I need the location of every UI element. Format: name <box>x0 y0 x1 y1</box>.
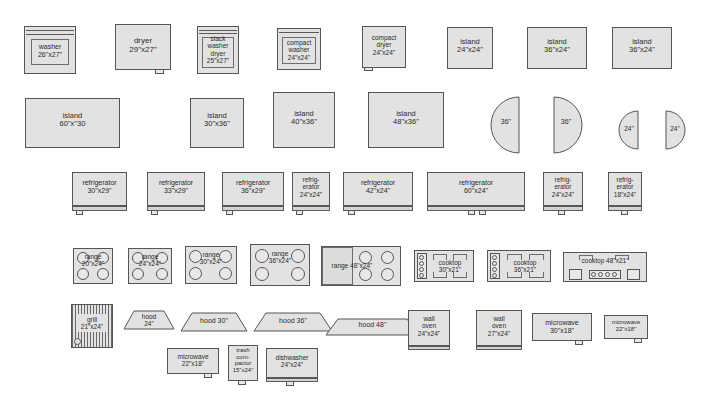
symbol-compact-washer[interactable]: compact washer 24"x24" <box>277 28 321 72</box>
compact-washer-lid-line <box>279 32 319 33</box>
microwave-22x18-b-foot <box>204 374 212 378</box>
refrigerator-60x24-body <box>427 172 525 206</box>
microwave-22x18-body <box>604 315 648 339</box>
symbol-dryer[interactable]: dryer 29"x27" <box>115 24 171 72</box>
refrigerator-24x24-foot <box>296 211 303 215</box>
symbol-island-36x24-b[interactable]: island 36"x24" <box>612 27 672 71</box>
microwave-30x18-body <box>532 313 592 341</box>
symbol-range-24x24[interactable]: range 24"x24" <box>128 248 172 284</box>
symbol-refrigerator-36x29[interactable]: refrigerator 36"x29" <box>222 172 284 216</box>
half-round-36-left-shape <box>490 96 522 154</box>
cooktop-48x21-knob-3 <box>605 272 610 277</box>
dryer-body <box>115 24 171 70</box>
cooktop-36x21-burner-4 <box>529 272 544 278</box>
symbol-cooktop-36x21[interactable]: cooktop 36"x21" <box>487 250 551 282</box>
range-30x24-burner-1 <box>189 250 202 263</box>
refrigerator-24x24-b-body <box>543 172 583 206</box>
symbol-washer[interactable]: washer 26"x27" <box>24 26 76 74</box>
symbol-half-round-24-left[interactable]: 24" <box>618 110 640 148</box>
hood-48-shape <box>325 318 420 336</box>
refrigerator-60x24-base <box>427 206 525 211</box>
range-30x24-burner-4 <box>219 267 232 280</box>
cooktop-36x21-burner-3 <box>507 272 522 278</box>
dishwasher-body <box>266 348 318 378</box>
refrigerator-42x24-body <box>343 172 413 206</box>
symbol-half-round-24-right[interactable]: 24" <box>664 110 686 148</box>
refrigerator-36x29-body <box>222 172 284 206</box>
wall-oven-27x24-base <box>476 346 522 350</box>
refrigerator-42x24-foot <box>348 211 355 215</box>
cooktop-30x21-knob-3 <box>419 267 424 272</box>
symbol-refrigerator-18x24[interactable]: refrig- erator 18"x24" <box>608 172 642 216</box>
compact-washer-drum <box>282 37 316 64</box>
refrigerator-30x29-foot <box>76 211 83 215</box>
range-48x24-burner-3 <box>359 268 372 281</box>
washer-lid-line-2 <box>26 34 74 35</box>
half-round-24-right-shape <box>664 110 686 150</box>
range-20x24-burner-4 <box>97 268 109 280</box>
trash-compactor-body <box>228 345 258 381</box>
symbol-hood-36[interactable]: hood 36" <box>253 312 333 332</box>
island-60x30-body <box>25 98 120 148</box>
symbol-island-36x24-a[interactable]: island 36"x24" <box>527 27 587 71</box>
symbol-wall-oven-27x24[interactable]: wall oven 27"x24" <box>476 310 522 352</box>
cooktop-30x21-knob-2 <box>419 261 424 266</box>
symbol-microwave-22x18-b[interactable]: microwave 22"x18" <box>167 348 219 380</box>
island-36x24-a-body <box>527 27 587 69</box>
refrigerator-18x24-foot <box>621 211 628 215</box>
microwave-22x18-b-body <box>167 348 219 374</box>
range-20x24-burner-2 <box>97 252 109 264</box>
symbol-range-20x24[interactable]: range 20"x24" <box>73 248 113 284</box>
washer-drum <box>31 39 69 65</box>
symbol-island-60x30[interactable]: island 60"x"30 <box>25 98 120 148</box>
washer-lid-line-1 <box>26 30 74 31</box>
symbol-island-48x36[interactable]: island 48"x36" <box>368 92 444 148</box>
stack-lid-line-2 <box>199 33 237 34</box>
refrigerator-60x24-foot-right <box>479 211 486 215</box>
symbol-hood-24[interactable]: hood 24" <box>123 310 175 330</box>
symbol-compact-dryer[interactable]: compact dryer 24"x24" <box>362 26 406 74</box>
symbol-trash-compactor-15x24[interactable]: trash com- pactor 15"x24" <box>228 345 258 387</box>
cooktop-36x21-burner-2 <box>529 254 544 260</box>
range-36x24-burner-1 <box>255 249 269 263</box>
symbol-refrigerator-24x24-b[interactable]: refrig- erator 24"x24" <box>543 172 583 216</box>
symbol-island-40x36[interactable]: island 40"x36" <box>273 92 335 148</box>
microwave-30x18-foot <box>575 341 583 345</box>
symbol-range-48x24[interactable]: range 48"x24" <box>321 246 401 286</box>
cooktop-48x21-right-element <box>627 269 640 280</box>
symbol-refrigerator-42x24[interactable]: refrigerator 42"x24" <box>343 172 413 216</box>
symbol-grill-21x24[interactable]: grill 21"x24" <box>71 304 113 348</box>
symbol-wall-oven-24x24[interactable]: wall oven 24"x24" <box>408 310 450 352</box>
symbol-range-30x24[interactable]: range 30"x24" <box>185 246 237 284</box>
range-24x24-burner-4 <box>156 268 168 280</box>
cooktop-48x21-knob-4 <box>612 272 617 277</box>
symbol-refrigerator-60x24[interactable]: refrigerator 60"x24" <box>427 172 525 216</box>
symbol-island-30x36[interactable]: island 30"x36" <box>190 98 244 148</box>
symbol-cooktop-48x21[interactable]: cooktop 48"x21" <box>563 252 647 282</box>
symbol-half-round-36-right[interactable]: 36" <box>552 96 584 152</box>
range-24x24-burner-2 <box>156 252 168 264</box>
symbol-stack-washer-dryer[interactable]: stack washer dryer 25"x27" <box>197 26 239 74</box>
refrigerator-24x24-b-foot <box>558 211 565 215</box>
symbol-hood-48[interactable]: hood 48" <box>325 318 420 336</box>
symbol-refrigerator-33x29[interactable]: refrigerator 33"x29" <box>147 172 205 216</box>
island-24x24-body <box>447 27 493 69</box>
symbol-dishwasher-24x24[interactable]: dishwasher 24"x24" <box>266 348 318 386</box>
symbol-half-round-36-left[interactable]: 36" <box>490 96 520 152</box>
symbol-refrigerator-30x29[interactable]: refrigerator 30"x29" <box>72 172 127 216</box>
symbol-hood-30[interactable]: hood 30" <box>180 312 248 332</box>
symbol-refrigerator-24x24[interactable]: refrig- erator 24"x24" <box>292 172 330 216</box>
cooktop-30x21-burner-3 <box>433 272 447 278</box>
stack-drum <box>202 37 234 68</box>
compact-dryer-body <box>362 26 406 68</box>
symbol-microwave-30x18[interactable]: microwave 30"x18" <box>532 313 592 347</box>
symbol-microwave-22x18[interactable]: microwave 22"x18" <box>604 315 648 345</box>
symbol-range-36x24[interactable]: range 36"x24" <box>250 244 310 286</box>
stack-lid-line-1 <box>199 30 237 31</box>
range-20x24-burner-3 <box>77 268 89 280</box>
range-48x24-burner-2 <box>381 251 394 264</box>
cooktop-30x21-knob-1 <box>419 255 424 260</box>
refrigerator-60x24-foot-left <box>468 211 475 215</box>
symbol-cooktop-30x21[interactable]: cooktop 30"x21" <box>414 250 474 282</box>
symbol-island-24x24[interactable]: island 24"x24" <box>447 27 493 71</box>
